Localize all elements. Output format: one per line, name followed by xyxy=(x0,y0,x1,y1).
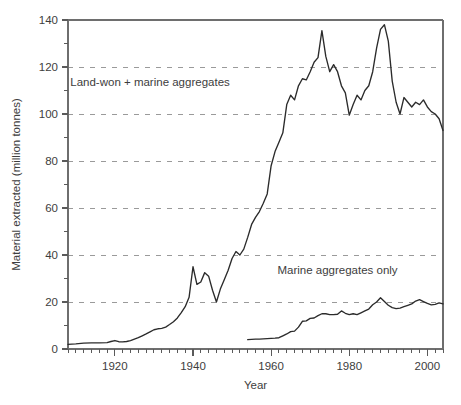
y-tick-label-0: 0 xyxy=(52,343,58,355)
x-tick-label-2000: 2000 xyxy=(415,360,441,372)
axis-titles-group: YearMaterial extracted (million tonnes) xyxy=(10,98,267,391)
series-group xyxy=(68,25,443,345)
y-tick-label-20: 20 xyxy=(45,296,58,308)
y-tick-label-40: 40 xyxy=(45,249,58,261)
x-tick-label-1960: 1960 xyxy=(258,360,284,372)
series-line-marine-only xyxy=(248,298,443,340)
series-annotation-0: Land-won + marine aggregates xyxy=(70,76,230,88)
y-tick-label-60: 60 xyxy=(45,202,58,214)
y-axis-title: Material extracted (million tonnes) xyxy=(10,98,22,271)
y-tick-label-80: 80 xyxy=(45,155,58,167)
chart-canvas: 02040608010012014019201940196019802000 L… xyxy=(0,0,461,405)
series-annotation-1: Marine aggregates only xyxy=(277,264,397,276)
axes-group xyxy=(68,20,443,349)
tick-labels-group: 02040608010012014019201940196019802000 xyxy=(39,14,440,372)
series-line-land-won-plus-marine xyxy=(68,25,443,345)
ticks-group xyxy=(62,20,443,356)
x-tick-label-1940: 1940 xyxy=(180,360,206,372)
y-tick-label-100: 100 xyxy=(39,108,58,120)
x-axis-title: Year xyxy=(244,379,267,391)
y-tick-label-140: 140 xyxy=(39,14,58,26)
chart-figure: 02040608010012014019201940196019802000 L… xyxy=(0,0,461,405)
x-tick-label-1920: 1920 xyxy=(102,360,128,372)
x-tick-label-1980: 1980 xyxy=(336,360,362,372)
annotations-group: Land-won + marine aggregatesMarine aggre… xyxy=(70,76,398,276)
y-tick-label-120: 120 xyxy=(39,61,58,73)
